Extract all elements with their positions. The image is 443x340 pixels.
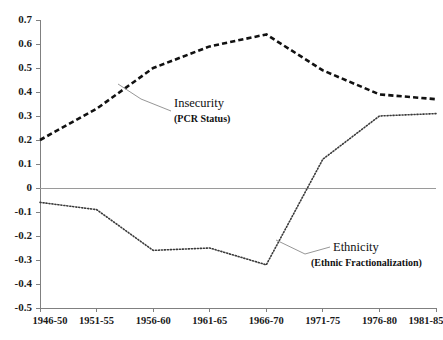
x-tick-label: 1966-70 — [249, 315, 284, 326]
y-tick-label: 0.7 — [18, 13, 32, 25]
insecurity-annotation-title: Insecurity — [174, 96, 225, 110]
y-tick-label: -0.4 — [15, 277, 33, 289]
y-tick-label: -0.1 — [15, 205, 32, 217]
x-axis-ticks: 1946-501951-551956-601961-651966-701971-… — [33, 308, 443, 326]
y-tick-label: -0.2 — [15, 229, 33, 241]
y-tick-label: 0 — [27, 181, 33, 193]
y-axis-ticks: 0.70.60.50.40.30.20.10-0.1-0.2-0.3-0.4-0… — [15, 13, 40, 313]
x-tick-label: 1951-55 — [79, 315, 114, 326]
y-tick-label: 0.1 — [18, 157, 32, 169]
y-tick-label: 0.4 — [18, 85, 32, 97]
y-tick-label: -0.3 — [15, 253, 33, 265]
y-tick-label: -0.5 — [15, 301, 33, 313]
ethnicity-annotation-title: Ethnicity — [333, 240, 380, 254]
x-tick-label: 1956-60 — [136, 315, 171, 326]
line-chart: 0.70.60.50.40.30.20.10-0.1-0.2-0.3-0.4-0… — [0, 0, 443, 340]
series-line-insecurity — [40, 34, 436, 140]
ethnicity-leader-line — [276, 240, 330, 254]
y-tick-label: 0.6 — [18, 37, 32, 49]
insecurity-annotation-subtitle: (PCR Status) — [174, 113, 230, 125]
x-tick-label: 1946-50 — [33, 315, 68, 326]
x-tick-label: 1971-75 — [305, 315, 340, 326]
y-tick-label: 0.3 — [18, 109, 32, 121]
chart-container: 0.70.60.50.40.30.20.10-0.1-0.2-0.3-0.4-0… — [0, 0, 443, 340]
y-tick-label: 0.5 — [18, 61, 32, 73]
y-tick-label: 0.2 — [18, 133, 32, 145]
x-tick-label: 1981-85 — [409, 315, 443, 326]
ethnicity-annotation-subtitle: (Ethnic Fractionalization) — [311, 257, 422, 269]
x-tick-label: 1976-80 — [362, 315, 397, 326]
x-tick-label: 1961-65 — [192, 315, 227, 326]
